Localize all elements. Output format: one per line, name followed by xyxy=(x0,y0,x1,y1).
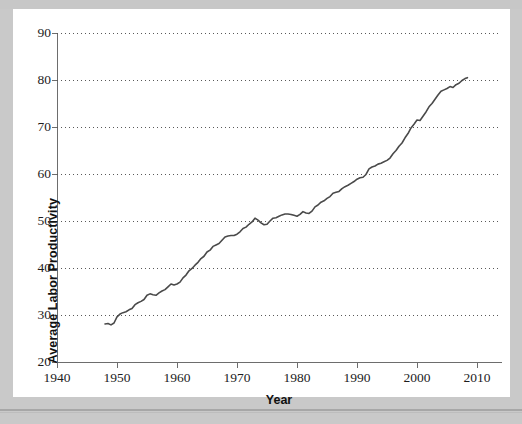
x-tick-mark-1970 xyxy=(237,362,238,368)
x-axis-line xyxy=(57,362,502,363)
x-tick-label-2010: 2010 xyxy=(464,370,491,386)
x-tick-label-1970: 1970 xyxy=(224,370,251,386)
x-tick-label-1980: 1980 xyxy=(284,370,311,386)
x-tick-mark-2010 xyxy=(477,362,478,368)
x-tick-mark-2000 xyxy=(417,362,418,368)
x-tick-label-1960: 1960 xyxy=(164,370,191,386)
figure-page: 2030405060708090 19401950196019701980199… xyxy=(0,0,522,424)
y-tick-label-90: 90 xyxy=(38,25,52,41)
x-tick-label-1950: 1950 xyxy=(104,370,131,386)
data-series-line xyxy=(57,33,501,362)
page-divider-rule xyxy=(0,409,522,411)
x-axis-title: Year xyxy=(266,393,292,407)
y-tick-label-70: 70 xyxy=(38,119,52,135)
y-axis-title: Average Labor Productivity xyxy=(46,198,60,363)
x-tick-mark-1980 xyxy=(297,362,298,368)
x-tick-label-1990: 1990 xyxy=(344,370,371,386)
y-tick-label-60: 60 xyxy=(38,166,52,182)
plot-area: 2030405060708090 19401950196019701980199… xyxy=(57,33,501,362)
line-chart: 2030405060708090 19401950196019701980199… xyxy=(13,9,510,397)
page-divider-rule-secondary xyxy=(0,412,522,413)
x-tick-mark-1950 xyxy=(117,362,118,368)
x-tick-label-1940: 1940 xyxy=(44,370,71,386)
clipped-text-strip xyxy=(0,0,522,9)
x-tick-mark-1990 xyxy=(357,362,358,368)
x-tick-label-2000: 2000 xyxy=(404,370,431,386)
x-tick-mark-1960 xyxy=(177,362,178,368)
figure-card: 2030405060708090 19401950196019701980199… xyxy=(13,9,510,397)
y-tick-label-80: 80 xyxy=(38,72,52,88)
